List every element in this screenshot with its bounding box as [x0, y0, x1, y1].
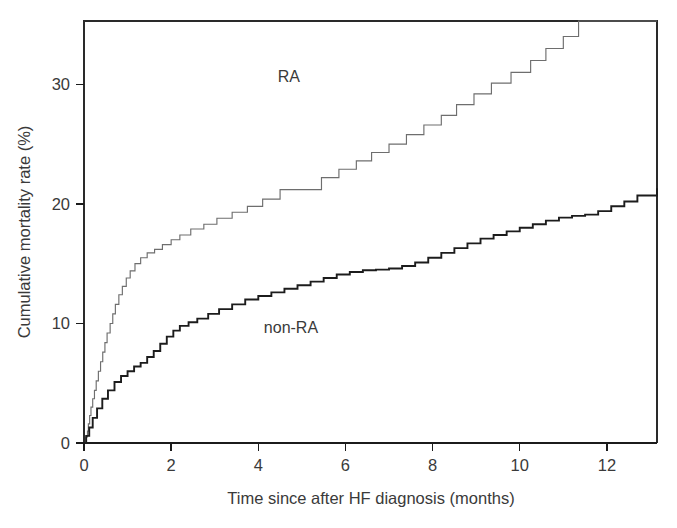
plot-frame — [84, 21, 657, 443]
x-tick-label: 12 — [598, 456, 616, 474]
y-axis-ticks: 0102030 — [52, 75, 84, 452]
y-tick-label: 10 — [52, 314, 70, 332]
chart-canvas: 0102030 024681012 RA non-RA Time since a… — [0, 0, 677, 528]
x-axis-ticks: 024681012 — [79, 443, 616, 474]
y-tick-label: 20 — [52, 195, 70, 213]
x-tick-label: 6 — [341, 456, 350, 474]
series-group — [84, 21, 657, 443]
x-tick-label: 4 — [254, 456, 263, 474]
x-tick-label: 8 — [428, 456, 437, 474]
series-label-ra: RA — [278, 68, 301, 85]
y-tick-label: 0 — [61, 434, 70, 452]
figure-container: 0102030 024681012 RA non-RA Time since a… — [0, 0, 677, 528]
x-tick-label: 2 — [167, 456, 176, 474]
x-axis-title: Time since after HF diagnosis (months) — [227, 489, 514, 507]
curve-ra — [84, 21, 657, 443]
curve-non-ra — [84, 188, 657, 443]
x-tick-label: 10 — [511, 456, 529, 474]
y-tick-label: 30 — [52, 75, 70, 93]
x-tick-label: 0 — [79, 456, 88, 474]
series-label-non-ra: non-RA — [264, 319, 319, 336]
y-axis-title: Cumulative mortality rate (%) — [15, 126, 33, 339]
frame-border — [84, 21, 657, 443]
